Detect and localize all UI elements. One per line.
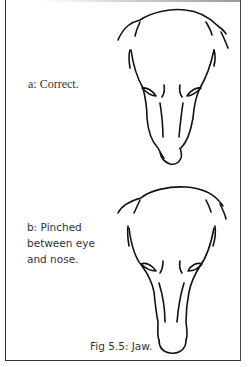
- head-drawings: [0, 0, 249, 367]
- head-a-left-ear-line: [135, 22, 140, 36]
- head-b-right-nose-line: [177, 283, 184, 322]
- head-a-skull-right-edge: [221, 32, 228, 48]
- head-b-left-brow: [160, 261, 163, 273]
- head-b-right-ear-line: [206, 200, 211, 212]
- head-b-right-face-outline: [186, 228, 214, 340]
- head-a-skull-top: [118, 9, 226, 40]
- head-b-left-ear-line: [134, 200, 140, 213]
- head-b-right-eye: [188, 263, 202, 271]
- head-a-left-brow: [162, 85, 164, 97]
- head-b-muzzle: [159, 340, 186, 353]
- head-a-correct-drawing: [118, 9, 228, 164]
- head-b-right-brow: [180, 261, 182, 273]
- head-a-right-nose-line: [179, 103, 183, 137]
- head-a-right-face-outline: [181, 50, 214, 148]
- head-a-right-brow: [180, 85, 182, 97]
- head-a-left-cheek: [129, 50, 130, 68]
- head-b-left-nose-line: [159, 283, 165, 322]
- head-a-left-face-outline: [131, 50, 164, 158]
- head-b-left-face-outline: [129, 228, 159, 340]
- head-a-left-nose-line: [160, 103, 163, 137]
- head-b-skull-top: [118, 187, 223, 213]
- head-a-right-ear-line: [206, 22, 212, 35]
- head-b-pinched-drawing: [118, 187, 226, 353]
